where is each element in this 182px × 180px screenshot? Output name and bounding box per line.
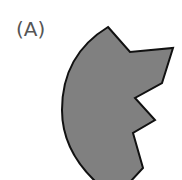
sector-shape bbox=[62, 27, 173, 180]
sector-shape-figure bbox=[0, 0, 182, 180]
